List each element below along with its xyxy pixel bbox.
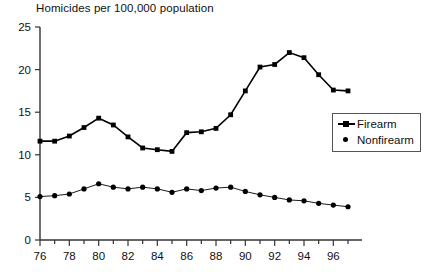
x-tick-label: 82 — [122, 250, 135, 262]
legend-label-firearm: Firearm — [357, 117, 397, 131]
data-point-marker — [316, 201, 321, 206]
data-point-marker — [287, 197, 292, 202]
series-nonfirearm — [37, 181, 350, 209]
legend-dot-marker-icon — [337, 134, 357, 146]
data-point-marker — [346, 89, 351, 94]
legend-line-marker-icon — [337, 118, 357, 130]
series-line — [40, 184, 348, 207]
data-point-marker — [214, 126, 219, 131]
legend-item-nonfirearm: Nonfirearm — [337, 132, 414, 148]
data-point-marker — [96, 116, 101, 121]
data-point-marker — [37, 194, 42, 199]
data-point-marker — [155, 186, 160, 191]
x-tick-label: 88 — [210, 250, 223, 262]
data-point-marker — [52, 139, 57, 144]
x-tick-label: 96 — [327, 250, 340, 262]
series-line — [40, 53, 348, 152]
data-point-marker — [199, 188, 204, 193]
chart-container: Homicides per 100,000 population 0510152… — [0, 0, 425, 272]
x-axis-tick-labels: 7678808284868890929496 — [34, 250, 340, 262]
data-point-marker — [228, 112, 233, 117]
x-tick-label: 78 — [63, 250, 76, 262]
data-point-marker — [287, 50, 292, 55]
data-point-marker — [213, 185, 218, 190]
data-point-marker — [184, 186, 189, 191]
data-point-marker — [38, 139, 43, 144]
data-point-marker — [81, 186, 86, 191]
data-point-marker — [258, 65, 263, 70]
data-point-marker — [96, 181, 101, 186]
y-tick-label: 25 — [18, 21, 31, 33]
chart-legend: Firearm Nonfirearm — [332, 113, 421, 152]
y-axis-ticks — [35, 27, 40, 240]
data-point-marker — [82, 125, 87, 130]
data-point-marker — [199, 129, 204, 134]
data-point-marker — [125, 186, 130, 191]
data-point-marker — [155, 147, 160, 152]
legend-item-firearm: Firearm — [337, 116, 414, 132]
y-tick-label: 20 — [18, 64, 31, 76]
data-point-marker — [140, 146, 145, 151]
data-point-marker — [52, 193, 57, 198]
y-axis-tick-labels: 0510152025 — [18, 21, 31, 246]
data-point-marker — [272, 195, 277, 200]
series-firearm — [38, 50, 351, 154]
data-point-marker — [67, 191, 72, 196]
data-point-marker — [184, 130, 189, 135]
data-point-marker — [316, 72, 321, 77]
data-point-marker — [257, 192, 262, 197]
y-tick-label: 10 — [18, 149, 31, 161]
x-tick-label: 80 — [92, 250, 105, 262]
data-point-marker — [331, 202, 336, 207]
data-point-marker — [126, 135, 131, 140]
x-tick-label: 86 — [180, 250, 193, 262]
data-point-marker — [243, 89, 248, 94]
data-point-marker — [331, 88, 336, 93]
data-point-marker — [301, 198, 306, 203]
y-tick-label: 5 — [25, 191, 31, 203]
x-tick-label: 76 — [34, 250, 47, 262]
data-point-marker — [243, 189, 248, 194]
data-point-marker — [169, 190, 174, 195]
legend-label-nonfirearm: Nonfirearm — [357, 133, 414, 147]
data-point-marker — [67, 134, 72, 139]
y-tick-label: 15 — [18, 106, 31, 118]
data-point-marker — [111, 123, 116, 128]
x-tick-label: 94 — [298, 250, 311, 262]
x-axis-ticks — [40, 240, 348, 246]
data-point-marker — [345, 204, 350, 209]
data-point-marker — [170, 149, 175, 154]
data-point-marker — [111, 185, 116, 190]
y-tick-label: 0 — [25, 234, 31, 246]
x-tick-label: 92 — [268, 250, 281, 262]
x-tick-label: 84 — [151, 250, 164, 262]
data-point-marker — [228, 185, 233, 190]
data-point-marker — [272, 62, 277, 67]
data-point-marker — [302, 55, 307, 60]
x-tick-label: 90 — [239, 250, 252, 262]
data-point-marker — [140, 185, 145, 190]
